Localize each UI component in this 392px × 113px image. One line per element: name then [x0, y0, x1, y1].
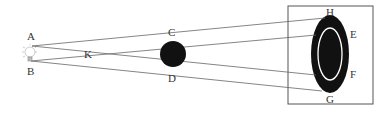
- label-e: E: [350, 28, 357, 40]
- label-g: G: [326, 93, 334, 105]
- label-k: K: [84, 48, 92, 60]
- label-a: A: [27, 30, 35, 42]
- label-d: D: [168, 72, 176, 84]
- label-h: H: [326, 6, 334, 18]
- ray-a-to-h: [32, 18, 325, 46]
- opaque-ball: [160, 41, 186, 67]
- label-c: C: [168, 26, 175, 38]
- label-b: B: [27, 65, 34, 77]
- shadow-diagram: A B K C D H E F G: [0, 0, 392, 113]
- label-f: F: [350, 68, 356, 80]
- umbra-boundary-ring: [318, 28, 342, 80]
